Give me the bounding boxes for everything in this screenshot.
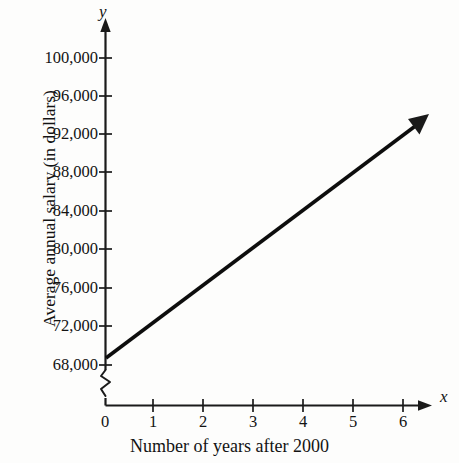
x-axis-title: Number of years after 2000 [0, 436, 459, 457]
x-axis-variable-label: x [440, 387, 448, 407]
x-tick-label-2: 2 [184, 414, 222, 431]
x-tick-label-6: 6 [384, 414, 422, 431]
y-axis-title: Average annual salary (in dollars) [39, 54, 60, 364]
y-axis-variable-label: y [99, 2, 107, 22]
x-tick-label-1: 1 [134, 414, 172, 431]
x-axis-arrowhead [418, 400, 432, 410]
salary-trend-line [106, 124, 418, 358]
salary-line-chart: 100,000 96,000 92,000 88,000 84,000 80,0… [0, 0, 459, 463]
chart-canvas [0, 0, 459, 463]
trend-line-arrowhead [408, 114, 429, 135]
x-tick-label-3: 3 [234, 414, 272, 431]
axis-break-icon [101, 370, 110, 396]
x-tick-label-5: 5 [334, 414, 372, 431]
x-tick-label-0: 0 [86, 414, 124, 431]
x-tick-label-4: 4 [284, 414, 322, 431]
